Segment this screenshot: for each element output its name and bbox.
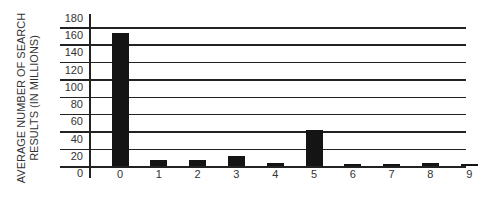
- y-tick-label: 180: [53, 12, 83, 24]
- y-tick-label: 120: [53, 64, 83, 76]
- bar-chart: 0204060801001201401601800123456789: [0, 0, 479, 200]
- bar-3: [228, 156, 245, 166]
- bar-7: [383, 164, 400, 166]
- x-tick-label: 6: [343, 168, 363, 180]
- y-tick-label: 60: [53, 115, 83, 127]
- y-tick-label: 40: [53, 133, 83, 145]
- x-tick-label: 8: [420, 168, 440, 180]
- x-tick-label: 1: [149, 168, 169, 180]
- y-tick-label: 0: [53, 167, 83, 179]
- bar-1: [150, 160, 167, 166]
- gridline: [60, 27, 466, 29]
- bar-6: [344, 164, 361, 166]
- x-tick-label: 2: [188, 168, 208, 180]
- bar-4: [267, 163, 284, 166]
- x-tick-label: 3: [226, 168, 246, 180]
- bar-0: [112, 33, 129, 166]
- bar-5: [306, 130, 323, 166]
- x-tick-label: 9: [459, 168, 479, 180]
- y-tick-label: 140: [53, 46, 83, 58]
- y-tick-label: 100: [53, 81, 83, 93]
- y-axis-line: [89, 14, 91, 178]
- bar-9: [461, 164, 478, 166]
- y-tick-label: 20: [53, 150, 83, 162]
- x-tick-label: 5: [304, 168, 324, 180]
- bar-8: [422, 163, 439, 166]
- bar-2: [189, 160, 206, 166]
- x-tick-label: 4: [265, 168, 285, 180]
- y-tick-label: 160: [53, 29, 83, 41]
- x-tick-label: 7: [382, 168, 402, 180]
- x-tick-label: 0: [110, 168, 130, 180]
- y-tick-label: 80: [53, 98, 83, 110]
